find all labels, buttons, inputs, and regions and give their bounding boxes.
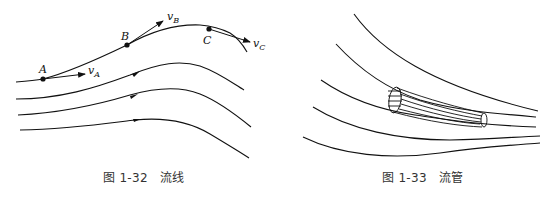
stream-tube <box>387 86 487 127</box>
figure-streamlines: A B C vA vB vC 图 1-32流线 <box>0 0 280 201</box>
streamline-1 <box>354 14 538 111</box>
figure-number: 图 1-32 <box>103 171 148 185</box>
tube-outlet-section <box>481 113 487 127</box>
velocity-label-C: vC <box>253 37 265 52</box>
streamline-1 <box>16 25 247 82</box>
velocity-label-A: vA <box>88 64 100 79</box>
velocity-vector-B <box>127 21 163 45</box>
streamline-4 <box>313 107 540 140</box>
streamline-2 <box>16 63 244 99</box>
figure-caption: 图 1-33流管 <box>382 168 463 185</box>
figure-number: 图 1-33 <box>382 171 427 185</box>
streamline-2 <box>336 44 536 117</box>
velocity-label-B: vB <box>167 10 179 25</box>
point-label-C: C <box>203 34 212 47</box>
figure-stream-tube: 图 1-33流管 <box>280 0 553 201</box>
streamline-4 <box>20 119 249 158</box>
point-label-B: B <box>120 30 129 43</box>
flow-arrow-icon <box>132 71 140 77</box>
velocity-vector-A <box>43 74 85 79</box>
streamline-5 <box>303 137 540 156</box>
figure-title: 流线 <box>160 171 185 185</box>
flow-arrow-icon <box>133 119 141 122</box>
figure-caption: 图 1-32流线 <box>103 168 184 185</box>
figure-title: 流管 <box>439 171 464 185</box>
velocity-vector-C <box>209 29 250 42</box>
point-label-A: A <box>38 63 47 76</box>
